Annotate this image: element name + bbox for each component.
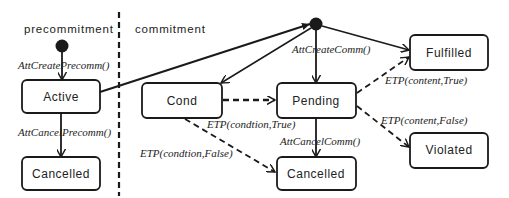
state-pending[interactable]: Pending xyxy=(277,83,356,118)
precommitment-initial-state-icon xyxy=(56,40,69,53)
state-pending-label: Pending xyxy=(292,94,340,108)
state-comm-cancelled-label: Cancelled xyxy=(287,167,345,181)
commitment-region-label: commitment xyxy=(135,23,206,35)
state-violated[interactable]: Violated xyxy=(410,133,488,168)
label-att-create-precomm: AttCreatePrecomm() xyxy=(17,59,110,72)
label-etp-condition-false: ETP(condtion,False) xyxy=(139,147,233,160)
label-etp-content-true: ETP(content,True) xyxy=(384,74,468,87)
label-etp-content-false: ETP(content,False) xyxy=(380,114,468,127)
transition-initial-to-cond xyxy=(221,28,311,83)
state-fulfilled-label: Fulfilled xyxy=(426,46,472,60)
transition-etp-content-false xyxy=(357,106,409,147)
state-cond[interactable]: Cond xyxy=(142,83,222,118)
state-active[interactable]: Active xyxy=(22,80,100,113)
label-att-create-comm: AttCreateComm() xyxy=(291,43,371,56)
state-cond-label: Cond xyxy=(167,94,198,108)
state-precomm-cancelled-label: Cancelled xyxy=(32,167,90,181)
label-att-cancel-precomm: AttCancelPrecomm() xyxy=(17,126,111,139)
precommitment-region-label: precommitment xyxy=(24,23,114,35)
state-active-label: Active xyxy=(43,90,79,104)
state-diagram: precommitment commitment AttCreatePrecom… xyxy=(0,0,509,198)
label-att-cancel-comm: AttCancelComm() xyxy=(279,135,360,148)
state-comm-cancelled[interactable]: Cancelled xyxy=(277,157,356,190)
commitment-initial-state-icon xyxy=(310,18,323,31)
state-violated-label: Violated xyxy=(425,143,472,157)
label-etp-condition-true: ETP(condtion,True) xyxy=(206,118,296,131)
state-fulfilled[interactable]: Fulfilled xyxy=(410,35,488,70)
state-precomm-cancelled[interactable]: Cancelled xyxy=(22,157,100,190)
